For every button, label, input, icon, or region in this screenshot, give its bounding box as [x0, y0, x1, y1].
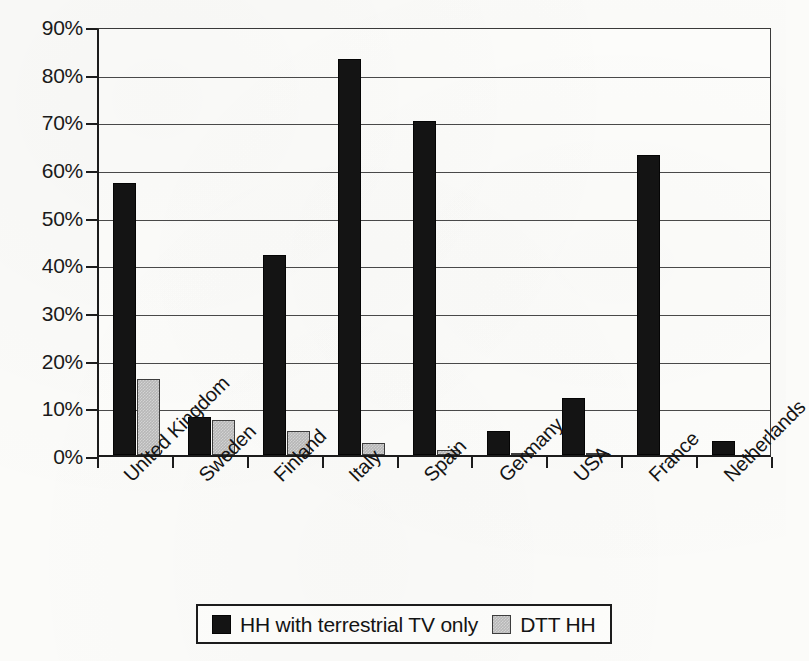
y-axis-tick-mark	[86, 314, 97, 316]
y-axis-tick-mark	[86, 76, 97, 78]
x-axis-tick-mark	[322, 457, 324, 468]
x-axis-tick-mark	[97, 457, 99, 468]
x-axis-tick-mark	[397, 457, 399, 468]
y-axis-tick-label: 30%	[5, 303, 83, 324]
y-axis-tick-mark	[86, 409, 97, 411]
y-axis-tick-mark	[86, 171, 97, 173]
y-axis-tick-mark	[86, 457, 97, 459]
y-axis-tick-mark	[86, 362, 97, 364]
x-axis-tick-mark	[621, 457, 623, 468]
x-axis-tick-mark	[172, 457, 174, 468]
y-axis-tick-mark	[86, 266, 97, 268]
gridline	[99, 77, 770, 78]
gray-square-icon	[492, 615, 511, 634]
y-axis-tick-label: 50%	[5, 208, 83, 229]
legend-entry-dtt: DTT HH	[492, 614, 595, 635]
y-axis-tick-mark	[86, 123, 97, 125]
y-axis-tick-label: 70%	[5, 112, 83, 133]
bar-spain-terrestrial	[413, 121, 436, 455]
bar-italy-terrestrial	[338, 59, 361, 455]
bar-germany-terrestrial	[487, 431, 510, 455]
bar-netherlands-terrestrial	[712, 441, 735, 455]
y-axis-tick-mark	[86, 28, 97, 30]
bar-france-terrestrial	[637, 155, 660, 455]
y-axis-tick-label: 80%	[5, 65, 83, 86]
y-axis-tick-label: 40%	[5, 255, 83, 276]
y-axis-tick-label: 0%	[5, 446, 83, 467]
y-axis-tick-label: 90%	[5, 17, 83, 38]
bar-finland-terrestrial	[263, 255, 286, 455]
x-axis-tick-mark	[771, 457, 773, 468]
bar-united-kingdom-terrestrial	[113, 183, 136, 455]
legend-label-terrestrial: HH with terrestrial TV only	[240, 614, 478, 635]
x-axis-tick-mark	[696, 457, 698, 468]
black-square-icon	[212, 615, 231, 634]
legend-label-dtt: DTT HH	[520, 614, 595, 635]
y-axis-tick-label: 20%	[5, 351, 83, 372]
x-axis-tick-mark	[471, 457, 473, 468]
x-axis-tick-mark	[546, 457, 548, 468]
chart-legend: HH with terrestrial TV only DTT HH	[196, 604, 612, 644]
legend-entry-terrestrial: HH with terrestrial TV only	[212, 614, 478, 635]
y-axis-tick-label: 10%	[5, 398, 83, 419]
x-axis-tick-mark	[247, 457, 249, 468]
y-axis-tick-label: 60%	[5, 160, 83, 181]
y-axis-tick-mark	[86, 219, 97, 221]
